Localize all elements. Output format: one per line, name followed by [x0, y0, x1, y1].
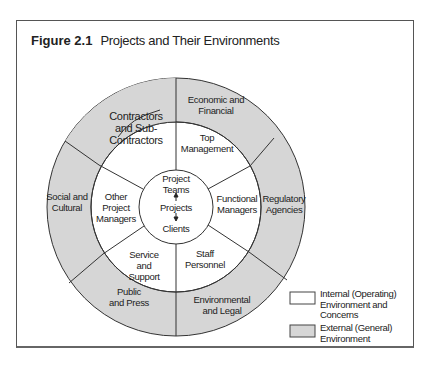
- external-environmental-legal: Environmental and Legal: [194, 294, 251, 316]
- legend-swatch-internal: [290, 292, 315, 304]
- internal-functional-managers: Functional Managers: [217, 193, 258, 215]
- external-social-cultural: Social and Cultural: [46, 191, 87, 213]
- internal-contractors: Contractors and Sub- Contractors: [109, 110, 163, 146]
- legend-internal-label: Internal (Operating) Environment and Con…: [320, 289, 396, 321]
- internal-top-management: Top Management: [181, 132, 233, 154]
- external-regulatory-agencies: Regulatory Agencies: [263, 193, 306, 215]
- legend-swatch-external: [290, 325, 315, 337]
- legend-external-label: External (General) Environment: [320, 323, 392, 344]
- center-label-clients: Clients: [163, 223, 190, 234]
- internal-service-support: Service and Support: [128, 249, 159, 282]
- center-label-projects: Projects: [160, 202, 192, 213]
- external-economic-financial: Economic and Financial: [188, 94, 245, 116]
- internal-staff-personnel: Staff Personnel: [185, 248, 225, 270]
- external-public-press: Public and Press: [109, 286, 149, 308]
- internal-other-project-managers: Other Project Managers: [96, 191, 136, 224]
- center-label-project-teams: Project Teams: [162, 173, 189, 195]
